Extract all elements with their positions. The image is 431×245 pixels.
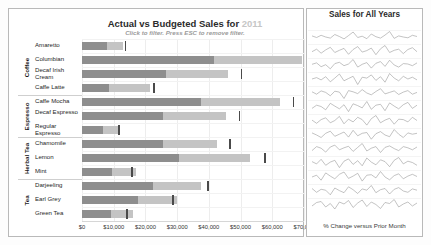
budget-target-marker — [153, 83, 155, 93]
row-label[interactable]: Decaf Espresso — [35, 109, 81, 116]
axis-tick-label: $40,000 — [198, 224, 219, 230]
row-label[interactable]: Chamomile — [35, 140, 81, 147]
bar-inner-segment[interactable] — [82, 210, 111, 218]
sparkline[interactable] — [312, 114, 417, 128]
sparkline-separator — [308, 58, 421, 59]
bar-row[interactable] — [82, 42, 304, 50]
bar-inner-segment[interactable] — [82, 112, 163, 120]
bar-inner-segment[interactable] — [82, 56, 214, 64]
bar-inner-segment[interactable] — [82, 196, 138, 204]
group-label-text: Herbal Tea — [23, 142, 30, 173]
row-label-column: AmarettoColumbianDecaf Irish CreamCaffe … — [9, 39, 82, 221]
group-label-text: Coffee — [23, 57, 30, 76]
sparkline[interactable] — [312, 142, 417, 156]
sparkline[interactable] — [312, 128, 417, 142]
budget-target-marker — [264, 153, 266, 163]
row-separator — [82, 39, 304, 40]
sparkline[interactable] — [312, 86, 417, 100]
group-separator — [18, 95, 82, 96]
bar-inner-segment[interactable] — [82, 42, 107, 50]
bar-inner-segment[interactable] — [82, 154, 179, 162]
row-label[interactable]: Lemon — [35, 154, 81, 161]
bar-row[interactable] — [82, 112, 304, 120]
row-separator — [82, 137, 304, 138]
group-label-text: Espresso — [23, 102, 30, 130]
sparkline[interactable] — [312, 100, 417, 114]
bar-inner-segment[interactable] — [82, 168, 112, 176]
page-title-year: 2011 — [242, 18, 263, 29]
group-label[interactable]: Espresso — [21, 95, 32, 137]
axis-tick-label: $20,000 — [135, 224, 156, 230]
sparkline[interactable] — [312, 170, 417, 184]
row-label[interactable]: Decaf Irish Cream — [35, 67, 81, 80]
row-label[interactable]: Amaretto — [35, 42, 81, 49]
sparkline-separator — [308, 72, 421, 73]
budget-target-marker — [293, 97, 295, 107]
sparkline[interactable] — [312, 184, 417, 198]
row-label[interactable]: Caffe Mocha — [35, 98, 81, 105]
row-label[interactable]: Mint — [35, 168, 81, 175]
sparkline-separator — [308, 198, 421, 199]
sparkline[interactable] — [312, 44, 417, 58]
bar-row[interactable] — [82, 182, 304, 190]
sparkline[interactable] — [312, 72, 417, 86]
sparkline-column — [308, 30, 421, 212]
bar-row[interactable] — [82, 56, 304, 64]
row-label[interactable]: Earl Grey — [35, 196, 81, 203]
sparkline-separator — [308, 44, 421, 45]
sparkline-separator — [308, 100, 421, 101]
bar-row[interactable] — [82, 140, 304, 148]
bar-inner-segment[interactable] — [82, 126, 103, 134]
bar-inner-segment[interactable] — [82, 140, 163, 148]
sparkline[interactable] — [312, 58, 417, 72]
row-separator — [82, 165, 304, 166]
row-label[interactable]: Caffe Latte — [35, 84, 81, 91]
row-label[interactable]: Regular Espresso — [35, 123, 81, 136]
actual-vs-budget-panel: Actual vs Budgeted Sales for 2011 Click … — [8, 8, 304, 237]
bar-row[interactable] — [82, 168, 304, 176]
sparkline-separator — [308, 30, 421, 31]
bar-row[interactable] — [82, 126, 304, 134]
row-separator — [82, 207, 304, 208]
sparkline-panel-footer: % Change versus Prior Month — [306, 222, 423, 229]
row-separator — [82, 151, 304, 152]
bar-row[interactable] — [82, 98, 304, 106]
sparkline-separator — [308, 114, 421, 115]
bar-chart-plot — [82, 39, 304, 221]
bar-inner-segment[interactable] — [82, 84, 109, 92]
axis-tick-label: $60,000 — [262, 224, 283, 230]
bar-row[interactable] — [82, 210, 304, 218]
row-separator — [82, 123, 304, 124]
budget-target-marker — [207, 181, 209, 191]
sparkline[interactable] — [312, 30, 417, 44]
bar-inner-segment[interactable] — [82, 98, 201, 106]
axis-tick-label: $30,000 — [167, 224, 188, 230]
bar-row[interactable] — [82, 154, 304, 162]
sparkline-separator — [308, 184, 421, 185]
gridline — [304, 39, 305, 221]
sparkline[interactable] — [312, 198, 417, 212]
row-separator — [82, 179, 304, 180]
sparkline-separator — [308, 142, 421, 143]
bar-inner-segment[interactable] — [82, 70, 166, 78]
row-label[interactable]: Darjeeling — [35, 182, 81, 189]
budget-target-marker — [229, 139, 231, 149]
group-label[interactable]: Coffee — [21, 39, 32, 95]
sparkline[interactable] — [312, 156, 417, 170]
sparkline-separator — [308, 170, 421, 171]
page-title: Actual vs Budgeted Sales for 2011 — [69, 18, 301, 29]
group-label[interactable]: Herbal Tea — [21, 137, 32, 179]
row-label[interactable]: Green Tea — [35, 210, 81, 217]
bar-inner-segment[interactable] — [82, 182, 153, 190]
budget-target-marker — [239, 111, 241, 121]
sparkline-separator — [308, 156, 421, 157]
bar-row[interactable] — [82, 196, 304, 204]
budget-target-marker — [241, 69, 243, 79]
bar-row[interactable] — [82, 84, 304, 92]
group-label[interactable]: Tea — [21, 179, 32, 221]
row-label[interactable]: Columbian — [35, 56, 81, 63]
page-title-text: Actual vs Budgeted Sales for — [108, 18, 242, 29]
sparkline-separator — [308, 86, 421, 87]
row-separator — [82, 67, 304, 68]
bar-row[interactable] — [82, 70, 304, 78]
